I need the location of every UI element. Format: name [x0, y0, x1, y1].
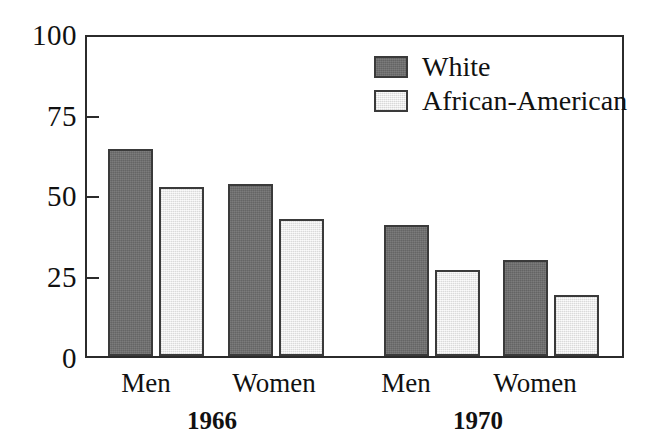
- y-axis-label-0: 0: [5, 344, 77, 373]
- y-axis-label-50: 50: [5, 182, 77, 211]
- x-axis-period-1970: 1970: [418, 408, 538, 433]
- legend-swatch-african-american-icon: [374, 90, 408, 112]
- legend-label-white: White: [422, 53, 490, 81]
- bar-1966-women-african-american[interactable]: [279, 219, 324, 356]
- bar-chart: 100 75 50 25 0 White African-American: [0, 0, 661, 443]
- legend-item-white[interactable]: White: [374, 50, 627, 84]
- bar-1970-men-african-american[interactable]: [435, 270, 480, 356]
- bar-1970-women-white[interactable]: [503, 260, 548, 356]
- y-axis-label-75: 75: [5, 102, 77, 131]
- y-axis-label-100: 100: [5, 21, 77, 50]
- bar-1970-men-white[interactable]: [384, 225, 429, 356]
- x-axis-label-1970-men: Men: [346, 370, 466, 397]
- bar-1966-women-white[interactable]: [228, 184, 273, 356]
- legend-label-african-american: African-American: [422, 87, 627, 115]
- y-axis-label-25: 25: [5, 263, 77, 292]
- x-axis-period-1966: 1966: [152, 408, 272, 433]
- y-tick-mark-75: [87, 116, 99, 118]
- y-tick-mark-25: [87, 277, 99, 279]
- x-axis-label-1970-women: Women: [475, 370, 595, 397]
- legend-item-african-american[interactable]: African-American: [374, 84, 627, 118]
- bar-1966-men-white[interactable]: [108, 149, 153, 356]
- plot-area: White African-American: [85, 35, 624, 358]
- x-axis-label-1966-men: Men: [86, 370, 206, 397]
- x-axis-label-1966-women: Women: [214, 370, 334, 397]
- bar-1970-women-african-american[interactable]: [554, 295, 599, 356]
- legend-swatch-white-icon: [374, 56, 408, 78]
- y-tick-mark-50: [87, 196, 99, 198]
- legend: White African-American: [374, 50, 627, 118]
- bar-1966-men-african-american[interactable]: [159, 187, 204, 356]
